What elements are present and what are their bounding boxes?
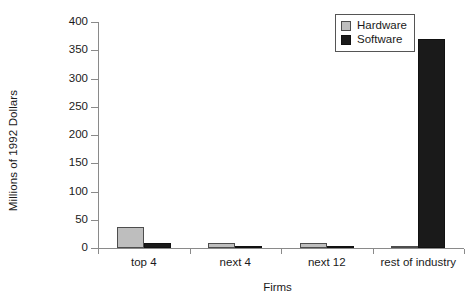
y-axis-title-text: Millions of 1992 Dollars [7, 90, 19, 211]
x-axis-category-label: top 4 [131, 257, 157, 269]
y-axis-tick [91, 163, 98, 164]
bar-hardware-rest-of-industry [391, 246, 418, 249]
bar-software-next-4 [235, 246, 262, 249]
chart-legend: Hardware Software [335, 14, 415, 52]
x-axis-category-label: next 12 [308, 257, 346, 269]
x-axis-tick [98, 249, 99, 254]
bar-software-top-4 [144, 243, 171, 248]
x-axis-title: Firms [0, 281, 475, 293]
bar-hardware-next-4 [208, 243, 235, 248]
bar-hardware-top-4 [117, 227, 144, 248]
y-axis-tick [91, 220, 98, 221]
y-axis-tick [91, 192, 98, 193]
y-axis-tick [91, 22, 98, 23]
y-axis-tick-label: 200 [50, 129, 88, 141]
y-axis-tick-label: 0 [50, 242, 88, 254]
y-axis-tick-label: 100 [50, 186, 88, 198]
y-axis-title: Millions of 1992 Dollars [0, 0, 26, 301]
plot-area [98, 22, 464, 248]
x-axis-tick [190, 249, 191, 254]
x-axis-tick [373, 249, 374, 254]
bar-software-next-12 [327, 246, 354, 249]
y-axis-tick-label: 300 [50, 73, 88, 85]
bar-software-rest-of-industry [418, 39, 445, 248]
hardware-swatch-icon [341, 21, 351, 31]
x-axis-category-label: next 4 [220, 257, 251, 269]
y-axis-tick-label: 150 [50, 157, 88, 169]
y-axis-tick [91, 248, 98, 249]
x-axis-tick [281, 249, 282, 254]
x-axis-title-text: Firms [263, 281, 292, 293]
legend-label-hardware: Hardware [357, 20, 407, 32]
y-axis-tick [91, 79, 98, 80]
y-axis-tick [91, 107, 98, 108]
y-axis-tick [91, 50, 98, 51]
legend-entry-hardware[interactable]: Hardware [341, 19, 407, 33]
y-axis-tick [91, 135, 98, 136]
legend-entry-software[interactable]: Software [341, 33, 407, 47]
bar-chart: Millions of 1992 Dollars 050100150200250… [0, 0, 475, 301]
y-axis-tick-label: 350 [50, 44, 88, 56]
legend-label-software: Software [357, 34, 402, 46]
x-axis-tick [464, 249, 465, 254]
bar-hardware-next-12 [300, 243, 327, 248]
y-axis-tick-labels: 050100150200250300350400 [46, 0, 88, 301]
software-swatch-icon [341, 35, 351, 45]
y-axis-tick-label: 400 [50, 16, 88, 28]
y-axis-tick-label: 50 [50, 214, 88, 226]
x-axis-category-label: rest of industry [381, 257, 456, 269]
y-axis-tick-label: 250 [50, 101, 88, 113]
